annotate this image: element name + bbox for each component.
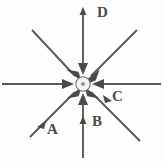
vector-diagram-figure: D C B A <box>0 0 163 165</box>
ray-label-c: C <box>112 89 123 104</box>
label-arrowhead-C <box>103 95 112 103</box>
ray-label-b: B <box>92 114 102 129</box>
ray-label-a: A <box>47 122 58 137</box>
arrowhead-left-ray <box>62 79 74 89</box>
center-hub-core <box>81 82 85 86</box>
label-arrowhead-B <box>80 116 87 124</box>
ray-label-d: D <box>97 5 108 20</box>
arrowhead-down-ray <box>78 93 88 105</box>
label-arrowhead-group <box>37 7 112 129</box>
ray-shaft-upper-right <box>91 30 137 76</box>
arrowhead-up-ray <box>78 63 88 75</box>
ray-shaft-upper-left <box>32 30 75 76</box>
label-arrowhead-D <box>80 7 87 15</box>
vector-diagram-canvas <box>0 0 163 165</box>
